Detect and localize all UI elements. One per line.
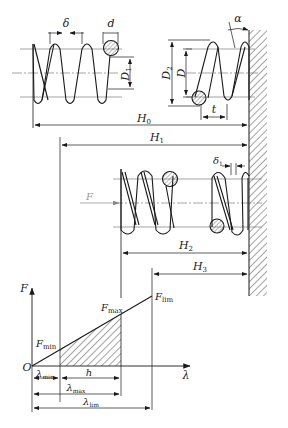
spring-diagram: δ d D1 D2 D t — [0, 0, 288, 428]
label-D2: D2 — [160, 66, 174, 80]
free-spring-right — [186, 42, 258, 105]
dimension-delta — [48, 32, 84, 44]
label-Fmax: Fmax — [100, 302, 123, 315]
label-F-force: F — [85, 191, 94, 202]
label-F-axis: F — [19, 282, 28, 295]
dimension-delta1 — [222, 163, 245, 175]
label-Flim: Flim — [154, 291, 173, 304]
label-Fmin: Fmin — [35, 338, 57, 351]
label-t: t — [212, 103, 217, 116]
label-H1: H1 — [149, 131, 164, 145]
free-spring-left — [12, 41, 122, 129]
label-delta: δ — [63, 17, 70, 30]
label-lambda-min: λmin — [35, 368, 54, 380]
label-D: D — [175, 68, 188, 78]
label-D1: D1 — [119, 67, 133, 81]
label-H0: H0 — [136, 112, 151, 126]
label-alpha: α — [234, 12, 242, 25]
label-lambda-max: λmax — [66, 382, 87, 394]
fixed-wall — [249, 30, 267, 296]
label-H3: H3 — [192, 260, 207, 274]
label-lambda-axis: λ — [182, 369, 190, 382]
label-lambda-lim: λlim — [82, 396, 99, 408]
compressed-spring-right — [210, 172, 249, 235]
label-delta1: δ1 — [213, 155, 223, 167]
dimension-H3 — [152, 268, 247, 410]
label-origin: O — [22, 361, 31, 374]
dimension-alpha — [228, 22, 248, 48]
label-H2: H2 — [178, 239, 193, 253]
label-d: d — [107, 17, 114, 30]
label-h: h — [86, 367, 92, 378]
